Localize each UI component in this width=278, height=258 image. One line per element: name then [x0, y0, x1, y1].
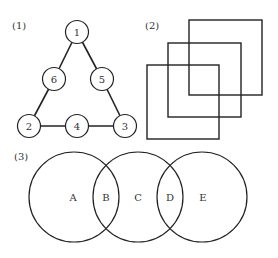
region-b-label: B	[102, 192, 109, 203]
panel-3-label: (3)	[14, 151, 28, 162]
node-6-label: 6	[51, 74, 57, 85]
panel-1-label: (1)	[12, 20, 26, 31]
diagram-canvas: (1) 1 6 5 2 4 3 (2)	[0, 0, 278, 258]
square-middle	[168, 43, 241, 117]
panel-1-triangle-graph: (1) 1 6 5 2 4 3	[12, 20, 137, 138]
square-back	[189, 20, 262, 95]
square-front	[147, 65, 219, 139]
region-d-label: D	[166, 192, 174, 203]
panel-2-overlapping-squares: (2)	[145, 20, 262, 139]
region-c-label: C	[134, 192, 142, 203]
region-e-label: E	[199, 192, 206, 203]
node-3-label: 3	[122, 121, 128, 132]
node-1-label: 1	[74, 27, 80, 38]
node-5-label: 5	[99, 74, 105, 85]
node-2-label: 2	[26, 121, 32, 132]
region-a-label: A	[68, 192, 77, 203]
node-4-label: 4	[74, 121, 80, 132]
panel-3-venn-circles: (3) A B C D E	[14, 151, 247, 242]
panel-2-label: (2)	[145, 20, 159, 31]
